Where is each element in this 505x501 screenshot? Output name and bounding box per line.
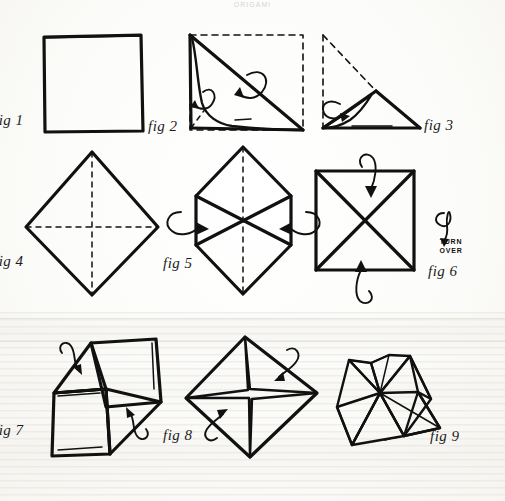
fig3-label: fig 3 xyxy=(424,117,454,134)
fig4-label: fig 4 xyxy=(0,253,24,270)
fig9-label: fig 9 xyxy=(430,428,460,445)
fig7-label: fig 7 xyxy=(0,422,24,439)
fig5-label: fig 5 xyxy=(163,255,193,272)
triangle-fold-icon xyxy=(323,35,420,128)
origami-instruction-sheet: ORIGAMI xyxy=(0,0,505,501)
fig1-label: fig 1 xyxy=(0,112,24,129)
square-x-icon xyxy=(316,155,450,304)
fold-arrow-bottom-icon xyxy=(355,260,372,303)
diagonal-fold-icon xyxy=(190,35,303,130)
fold-arrow-top-icon xyxy=(360,155,377,198)
square-outline-icon xyxy=(44,35,143,132)
fold-arrow-left-icon xyxy=(167,212,209,235)
folded-form-icon xyxy=(337,355,440,445)
fig6-label: fig 6 xyxy=(428,263,458,280)
fig8-label: fig 8 xyxy=(163,427,193,444)
diamond-creases-icon xyxy=(26,152,158,295)
fold-arrow-right-icon xyxy=(279,212,320,235)
fig2-label: fig 2 xyxy=(148,118,178,135)
turn-over-label: TURN OVER xyxy=(430,237,472,255)
pinwheel-icon xyxy=(52,339,161,456)
diamond-cross-icon xyxy=(186,337,317,457)
